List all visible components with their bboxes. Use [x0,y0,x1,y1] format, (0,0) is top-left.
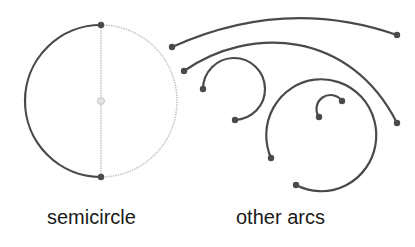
arc-4-end-point [293,182,299,188]
arc-2-start-point [181,68,187,74]
semicircle-bottom-endpoint [98,174,104,180]
arc-3 [203,58,265,120]
semicircle-top-endpoint [98,22,104,28]
arc-5 [316,95,342,117]
semicircle-arc [25,25,101,177]
arc-4 [266,79,376,191]
arc-5-start-point [316,114,322,120]
semicircle-caption: semicircle [47,206,136,229]
arc-2 [184,43,397,123]
other-arcs-caption: other arcs [236,206,325,229]
semicircle-guide-half [101,25,177,177]
arc-3-end-point [232,117,238,123]
semicircle-center-point [98,98,105,105]
other-arcs-group [169,18,400,191]
arc-1-end-point [394,32,400,38]
arc-5-end-point [339,98,345,104]
arc-3-start-point [200,86,206,92]
arc-4-start-point [268,155,274,161]
arc-1-start-point [169,44,175,50]
arc-2-end-point [394,120,400,126]
